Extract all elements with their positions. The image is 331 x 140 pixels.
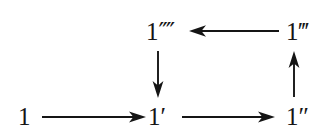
arrow-one-quadruple-prime-to-one-prime [0, 0, 331, 140]
diagram-canvas: 1 1′ 1″ 1‴ 1⁗ [0, 0, 331, 140]
